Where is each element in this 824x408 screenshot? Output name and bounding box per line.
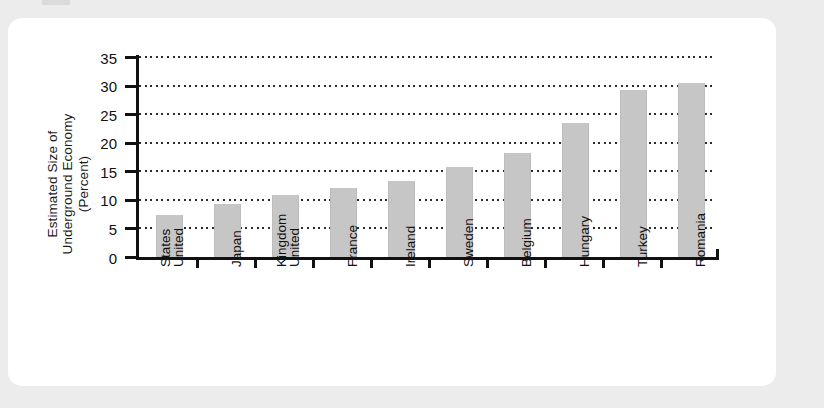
y-axis-tick: 5 — [125, 227, 137, 230]
y-axis-title-line-1: Estimated Size of — [45, 131, 60, 238]
y-axis-title-line-2: Underground Economy — [60, 114, 75, 255]
x-axis-label-line: Ireland — [403, 226, 418, 267]
x-axis-tick — [486, 258, 489, 268]
bar-chart: Estimated Size of Underground Economy (P… — [8, 18, 776, 386]
y-axis-tick-label: 10 — [100, 192, 117, 209]
y-axis-tick: 20 — [125, 142, 137, 145]
y-axis-tick: 0 — [125, 256, 137, 259]
y-axis-title: Estimated Size of Underground Economy (P… — [38, 69, 98, 299]
x-axis-label-line: Sweden — [461, 218, 476, 267]
x-axis-tick — [312, 258, 315, 268]
x-axis-tick — [370, 258, 373, 268]
plot-area: 05101520253035 — [136, 57, 716, 257]
y-axis-tick-label: 25 — [100, 106, 117, 123]
x-axis-label-line: Romania — [693, 213, 708, 267]
x-axis-label-line: Japan — [229, 230, 244, 267]
y-axis-tick-label: 20 — [100, 135, 117, 152]
x-axis-label-line: France — [345, 225, 360, 267]
y-axis-tick: 10 — [125, 199, 137, 202]
y-axis-tick: 25 — [125, 113, 137, 116]
x-axis-tick — [544, 258, 547, 268]
y-axis-tick-label: 5 — [109, 220, 117, 237]
x-axis-tick — [660, 258, 663, 268]
y-axis-tick-label: 0 — [109, 249, 117, 266]
y-axis-title-line-3: (Percent) — [76, 156, 91, 212]
y-axis-tick-label: 35 — [100, 49, 117, 66]
x-axis-label-line: States — [158, 229, 173, 267]
y-axis-tick: 35 — [125, 56, 137, 59]
bar-series — [139, 57, 716, 257]
y-axis-tick: 15 — [125, 170, 137, 173]
x-axis-tick — [602, 258, 605, 268]
y-axis-tick-label: 30 — [100, 78, 117, 95]
x-axis-label-line: Hungary — [577, 216, 592, 267]
chart-card: Estimated Size of Underground Economy (P… — [8, 18, 776, 386]
scan-artifact — [42, 0, 70, 5]
x-axis-tick — [196, 258, 199, 268]
x-axis-label-line: Kingdom — [274, 214, 289, 267]
y-axis-tick: 30 — [125, 85, 137, 88]
x-axis-end-cap — [716, 249, 719, 260]
x-axis-label-line: Turkey — [635, 226, 650, 267]
x-axis-tick — [254, 258, 257, 268]
x-axis-label-line: Belgium — [519, 218, 534, 267]
x-axis-tick — [428, 258, 431, 268]
y-axis-tick-label: 15 — [100, 163, 117, 180]
